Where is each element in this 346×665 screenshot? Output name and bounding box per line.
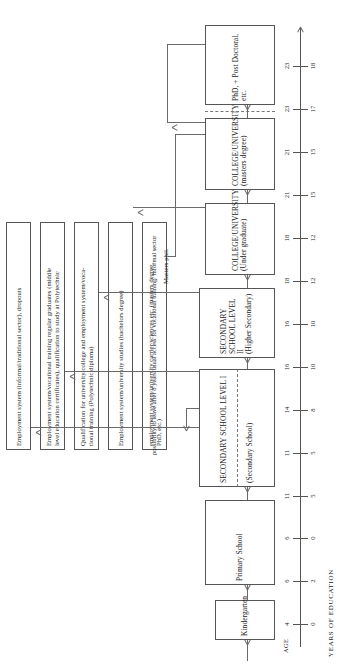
outcome-box-informal-sector[interactable]: Employment system (informal/traditional … bbox=[6, 222, 31, 450]
leave-note-line-4: informal sector bbox=[150, 236, 157, 276]
leave-note-line-1: possibility to leave after bbox=[150, 392, 157, 455]
outcome-box-polytechnic-diploma[interactable]: Qualification for university/college and… bbox=[74, 222, 99, 450]
axis-tick bbox=[293, 453, 308, 454]
leave-note: possibility to leave after 8 years/usual… bbox=[150, 236, 158, 455]
age-axis-line bbox=[300, 27, 301, 647]
stage-subtitle: (Higher Secondary) bbox=[245, 292, 253, 354]
age-tick-label: 14 bbox=[283, 401, 290, 419]
years-tick-label: 15 bbox=[309, 186, 316, 204]
years-tick-label: 8 bbox=[309, 401, 316, 419]
years-tick-label: 18 bbox=[309, 57, 316, 75]
connector-line bbox=[99, 292, 199, 293]
axis-tick bbox=[293, 238, 308, 239]
stage-subtitle: etc. bbox=[240, 34, 248, 101]
axis-tick bbox=[293, 195, 308, 196]
axis-tick bbox=[293, 496, 308, 497]
age-tick-label: 11 bbox=[283, 487, 290, 505]
outcome-line-1: Employment system/university studies (ba… bbox=[117, 291, 124, 446]
outcome-box-vocational-training-graduates[interactable]: Employment system/vocational training re… bbox=[40, 222, 65, 450]
connector-line bbox=[167, 44, 205, 45]
age-tick-label: 6 bbox=[283, 572, 290, 590]
education-flow-diagram: 4 0 6 2 6 0 11 5 11 5 14 8 16 10 16 10 1… bbox=[0, 0, 346, 665]
stage-title: SECONDARY SCHOOL LEVEL I bbox=[220, 376, 228, 483]
age-tick-label: 23 bbox=[283, 57, 290, 75]
years-tick-label: 0 bbox=[309, 529, 316, 547]
masters-phil-connector bbox=[168, 256, 176, 257]
age-tick-label: 6 bbox=[283, 529, 290, 547]
axis-tick bbox=[293, 152, 308, 153]
axis-tick bbox=[293, 624, 308, 625]
outcome-line-1: Employment system (informal/traditional … bbox=[15, 288, 22, 446]
axis-tick bbox=[293, 581, 308, 582]
years-tick-label: 10 bbox=[309, 358, 316, 376]
connector-line bbox=[133, 207, 205, 208]
stage-box-college-university-undergraduate[interactable]: COLLEGE/UNIVERSITY (Under graduate) bbox=[205, 203, 275, 275]
age-tick-label: 21 bbox=[283, 143, 290, 161]
years-tick-label: 12 bbox=[309, 229, 316, 247]
stage-box-college-university-masters[interactable]: COLLEGE/UNIVERSITY (masters degree) bbox=[205, 118, 275, 190]
stage-box-secondary-school-level-2[interactable]: SECONDARY SCHOOL LEVEL II (Higher Second… bbox=[199, 288, 275, 358]
years-of-education-axis-title: YEARS OF EDUCATION bbox=[327, 569, 335, 657]
axis-tick bbox=[293, 367, 308, 368]
age-tick-label: 21 bbox=[283, 186, 290, 204]
axis-tick bbox=[293, 66, 308, 67]
age-tick-label: 18 bbox=[283, 229, 290, 247]
masters-phil-connector bbox=[175, 134, 205, 135]
secondary-level-1-split-divider bbox=[237, 369, 238, 487]
years-tick-label: 5 bbox=[309, 444, 316, 462]
stage-box-kindergarten[interactable]: Kindergarten bbox=[215, 600, 275, 640]
stage-box-phd-post-doctoral[interactable]: PhD, + Post Doctoral, etc. bbox=[205, 25, 275, 105]
axis-tick bbox=[293, 538, 308, 539]
years-tick-label: 15 bbox=[309, 143, 316, 161]
outcome-line-2: level education certificates), qualifica… bbox=[53, 268, 60, 446]
age-tick-label: 18 bbox=[283, 272, 290, 290]
outcome-line-1: Qualification for university/college and… bbox=[79, 268, 86, 446]
age-tick-label: 16 bbox=[283, 315, 290, 333]
connector-line bbox=[167, 45, 168, 123]
years-tick-label: 12 bbox=[309, 272, 316, 290]
stage-title: Primary School bbox=[236, 533, 244, 581]
age-tick-label: 23 bbox=[283, 100, 290, 118]
leave-note-line-2: 8 years/usual access for bbox=[150, 329, 157, 391]
connector-line bbox=[167, 122, 205, 123]
age-axis-title: AGE bbox=[282, 639, 289, 653]
age-tick-label: 16 bbox=[283, 358, 290, 376]
outcome-line-2: tional training (Polytechnic diploma) bbox=[87, 268, 94, 446]
outcome-box-bachelors-degree[interactable]: Employment system/university studies (ba… bbox=[108, 222, 133, 450]
axis-tick bbox=[293, 324, 308, 325]
stage-title: Kindergarten bbox=[241, 596, 249, 636]
leave-note-connector bbox=[186, 408, 199, 409]
years-tick-label: 17 bbox=[309, 100, 316, 118]
leave-note-line-3: vocational training/ bbox=[150, 277, 157, 328]
age-tick-label: 4 bbox=[283, 615, 290, 633]
leave-note-connector bbox=[186, 409, 187, 428]
connector-line bbox=[31, 427, 199, 428]
masters-phd-divider bbox=[205, 111, 275, 112]
stage-title: SECONDARY SCHOOL LEVEL II bbox=[220, 292, 245, 354]
stage-box-primary-school[interactable]: Primary School bbox=[205, 500, 275, 585]
years-tick-label: 5 bbox=[309, 487, 316, 505]
axis-tick bbox=[293, 410, 308, 411]
connector-line bbox=[65, 371, 199, 372]
outcome-line-1: Employment system/vocational training re… bbox=[45, 268, 52, 446]
axis-tick bbox=[293, 109, 308, 110]
axis-tick bbox=[293, 281, 308, 282]
masters-phil-label: Masters phil. bbox=[162, 249, 169, 285]
masters-phil-connector bbox=[175, 135, 176, 257]
years-tick-label: 0 bbox=[309, 615, 316, 633]
years-tick-label: 10 bbox=[309, 315, 316, 333]
diagram-canvas: 4 0 6 2 6 0 11 5 11 5 14 8 16 10 16 10 1… bbox=[0, 0, 346, 665]
age-tick-label: 11 bbox=[283, 444, 290, 462]
years-tick-label: 2 bbox=[309, 572, 316, 590]
stage-subtitle: (Secondary School) bbox=[246, 376, 254, 483]
